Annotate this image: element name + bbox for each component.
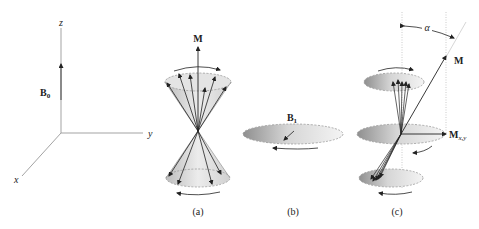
panel-a-precession-cones: M (a) [165,33,231,218]
b1-label: B1 [287,112,298,125]
panel-c-caption: (c) [391,206,402,218]
lower-cone [166,131,230,187]
b1-disk [243,124,343,144]
b0-label-subscript: 0 [47,92,51,100]
mxy-label: Mx,y [449,129,467,142]
panel-a-m-label: M [193,33,203,44]
panel-c-m-label: M [454,55,464,66]
upper-rotation-arrow-icon [378,68,413,71]
lower-precession-disk [359,169,423,187]
upper-rotation-arrow-icon [174,67,220,71]
panel-b-caption: (b) [287,206,299,218]
panel-a-caption: (a) [192,206,203,218]
middle-rotation-arrow-icon [413,146,432,153]
lower-rotation-arrow-icon [177,192,220,195]
x-axis [22,133,61,176]
panel-c-tipped-magnetization: α M Mx,y [357,12,467,218]
x-axis-label: x [13,174,19,185]
nmr-precession-diagram: z y x B0 [0,0,479,229]
tipped-m-vector-arrow-icon [401,56,446,134]
lower-rotation-arrow-icon [379,192,412,194]
b0-label: B0 [40,87,51,100]
coordinate-axes: z y x B0 [13,17,153,185]
z-axis-label: z [58,17,63,28]
panel-b-rotating-field: B1 (b) [243,112,343,218]
m-extension-line [446,22,466,57]
y-axis-label: y [147,128,153,139]
mxy-label-subscript: x,y [457,134,467,142]
alpha-label: α [424,22,430,33]
b1-rotation-arrow-icon [273,148,318,149]
b1-label-subscript: 1 [294,117,298,125]
